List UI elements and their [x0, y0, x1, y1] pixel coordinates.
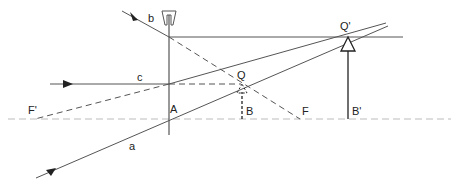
ray-a-arrow-icon: [46, 168, 56, 176]
label-F-prime: F': [28, 104, 37, 116]
label-b: b: [148, 12, 154, 24]
label-B-prime: B': [352, 105, 361, 117]
ray-c-virtual: [35, 84, 169, 119]
ray-c-arrow-icon: [63, 80, 73, 88]
label-Q: Q: [237, 69, 246, 81]
label-A: A: [170, 103, 178, 115]
ray-c-refracted: [169, 23, 386, 84]
label-c: c: [137, 71, 143, 83]
ray-a: [36, 26, 388, 178]
label-B: B: [246, 105, 253, 117]
optics-diagram: b c a A F' F Q B Q' B': [0, 0, 459, 189]
label-Q-prime: Q': [340, 20, 351, 32]
object-arrow-head-icon: [341, 37, 355, 51]
label-a: a: [129, 140, 136, 152]
label-F: F: [302, 105, 309, 117]
ray-b-incoming: [122, 11, 169, 37]
